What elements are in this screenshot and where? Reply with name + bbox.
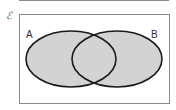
set-a-label: A bbox=[26, 29, 33, 40]
venn-diagram: A B bbox=[0, 0, 176, 110]
set-b-label: B bbox=[151, 29, 158, 40]
shaded-union bbox=[26, 31, 162, 87]
